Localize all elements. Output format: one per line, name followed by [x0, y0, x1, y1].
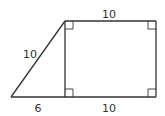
label-bottom-right: 10 — [102, 102, 116, 115]
label-top: 10 — [102, 8, 116, 21]
right-angle-marker-top-right — [148, 21, 156, 29]
label-hypotenuse: 10 — [23, 48, 37, 61]
right-angle-marker-bottom-right — [148, 89, 156, 97]
trapezoid-diagram: 10 10 6 10 — [0, 0, 165, 116]
right-angle-marker-top-left — [65, 21, 73, 29]
right-angle-marker-bottom-left — [65, 89, 73, 97]
label-bottom-left: 6 — [35, 102, 42, 115]
hypotenuse-edge — [11, 21, 65, 97]
